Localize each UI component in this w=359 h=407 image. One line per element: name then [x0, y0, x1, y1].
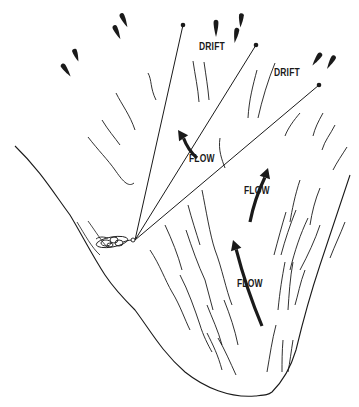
- drift-fish-icon: [72, 48, 81, 62]
- drift-fish-icon: [60, 63, 73, 78]
- line-end-dot: [317, 83, 322, 88]
- drift-label: DRIFT: [199, 41, 225, 52]
- line-end-dot: [254, 43, 259, 48]
- current-lines: [88, 61, 347, 258]
- drift-lines: [135, 23, 321, 240]
- drift-fish-icon: [112, 24, 123, 40]
- line-end-dot: [181, 23, 186, 28]
- drift-fish-icon: [232, 27, 239, 43]
- drift-fish-icon: [214, 20, 219, 37]
- drift-fish-icon: [238, 13, 244, 28]
- drift-fish-icon: [310, 52, 323, 67]
- flow-label: FLOW: [237, 278, 263, 289]
- flow-label: FLOW: [189, 153, 215, 164]
- diagram-canvas: [0, 0, 359, 407]
- current-lines-lower: [150, 190, 320, 375]
- drift-fish-icon: [119, 12, 130, 28]
- drift-flow-diagram: DRIFT DRIFT FLOW FLOW FLOW: [0, 0, 359, 407]
- flow-label: FLOW: [244, 185, 270, 196]
- drift-fish-icon: [325, 54, 337, 70]
- angler-cluster: [95, 234, 135, 249]
- drift-line: [135, 85, 319, 240]
- drift-label: DRIFT: [274, 67, 300, 78]
- valley-outline-left: [15, 146, 350, 396]
- drift-line: [135, 25, 183, 240]
